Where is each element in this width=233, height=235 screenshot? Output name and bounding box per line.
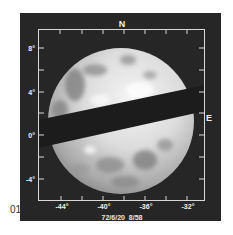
lon-label-minus40: -40° <box>98 203 111 210</box>
left-ticks <box>39 48 44 179</box>
lat-label-4: 4° <box>28 89 35 96</box>
lat-label-0: 0° <box>28 132 35 139</box>
east-label: E <box>206 113 212 123</box>
lon-label-minus44: -44° <box>56 203 69 210</box>
top-ticks <box>60 30 187 34</box>
lat-label-8: 8° <box>28 45 35 52</box>
timestamp-caption: 72/6/20 8/58 <box>102 214 143 221</box>
lon-label-minus36: -36° <box>140 203 153 210</box>
planet-map-figure: N E 8° 4° 0° -4° -44° -40° -36° -32° 72/… <box>0 0 233 235</box>
figure-number: 01 <box>10 204 21 215</box>
right-ticks <box>199 48 204 179</box>
bottom-ticks <box>61 196 187 200</box>
north-label: N <box>119 19 126 29</box>
lat-label-minus4: -4° <box>26 176 35 183</box>
lon-label-minus32: -32° <box>182 203 195 210</box>
